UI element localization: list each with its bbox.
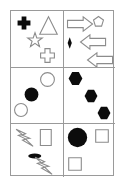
arrow-right-outline-shape bbox=[67, 15, 93, 33]
diamond-filled-shape bbox=[66, 37, 73, 49]
hexagon-filled-1-shape bbox=[68, 71, 83, 86]
cell-bottom-right bbox=[64, 124, 115, 177]
circle-filled-large-shape bbox=[67, 127, 88, 148]
cell-middle-right bbox=[64, 68, 115, 123]
cross-outline-shape bbox=[40, 48, 55, 63]
lightning-outline-2-shape bbox=[34, 157, 53, 175]
rectangle-outline-shape bbox=[39, 129, 53, 146]
pentagon-outline-shape bbox=[93, 16, 104, 27]
square-outline-2-shape bbox=[68, 157, 82, 171]
figure-canvas: Shape comparison grid Two-column, three-… bbox=[0, 0, 124, 188]
cross-filled-shape bbox=[17, 16, 31, 30]
cell-top-left bbox=[11, 11, 63, 67]
star-outline-shape bbox=[27, 32, 43, 48]
arrow-left-outline-1-shape bbox=[80, 33, 106, 51]
square-outline-1-shape bbox=[95, 129, 109, 143]
arrow-left-outline-2-shape bbox=[87, 51, 113, 67]
shape-grid-frame bbox=[10, 10, 114, 176]
lightning-outline-1-shape bbox=[15, 129, 34, 147]
cell-bottom-left bbox=[11, 124, 63, 177]
circle-filled-shape bbox=[24, 87, 39, 102]
cell-top-right bbox=[64, 11, 115, 67]
hexagon-filled-3-shape bbox=[97, 106, 111, 120]
hexagon-filled-2-shape bbox=[84, 89, 98, 103]
circle-outline-2-shape bbox=[14, 103, 28, 117]
circle-outline-1-shape bbox=[40, 72, 55, 87]
cell-middle-left bbox=[11, 68, 63, 123]
